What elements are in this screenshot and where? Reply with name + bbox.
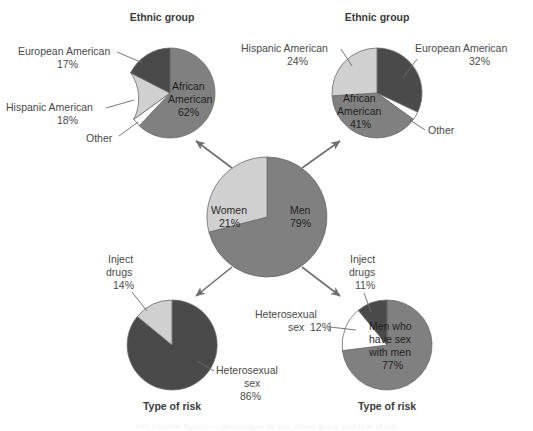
label-european-american-tr: European American <box>415 42 507 54</box>
label-msm-2: have sex <box>369 333 412 345</box>
label-european-american-tl-pct: 17% <box>57 58 78 70</box>
chart-title-bottom-left: Type of risk <box>143 400 201 412</box>
label-sex-br: sex <box>288 321 305 333</box>
pie-center-sex: Men 79% Women 21% <box>207 157 327 277</box>
label-other-tr: Other <box>428 124 455 136</box>
label-african-american-tr-2: American <box>337 105 382 117</box>
label-african-american-tl-pct: 62% <box>178 106 199 118</box>
label-heterosexual-sex-bl-pct: 86% <box>240 390 261 402</box>
hiv-statistics-figure: Ethnic group Ethnic group Type of risk T… <box>0 0 533 431</box>
chart-title-top-right: Ethnic group <box>345 11 410 23</box>
label-hispanic-american-tr: Hispanic American <box>241 42 328 54</box>
label-african-american-tl-2: American <box>168 93 213 105</box>
label-hispanic-american-tl: Hispanic American <box>6 101 93 113</box>
label-african-american-tl-1: African <box>172 80 205 92</box>
label-sex-bl: sex <box>244 377 261 389</box>
label-african-american-tr-pct: 41% <box>350 118 371 130</box>
label-heterosexual-br: Heterosexual <box>255 308 317 320</box>
chart-title-top-left: Ethnic group <box>130 11 195 23</box>
label-hispanic-american-tl-pct: 18% <box>57 114 78 126</box>
chart-title-bottom-right: Type of risk <box>358 400 416 412</box>
label-european-american-tl: European American <box>18 45 110 57</box>
figure-canvas: Ethnic group Ethnic group Type of risk T… <box>0 0 533 431</box>
label-drugs-br: drugs <box>349 266 375 278</box>
label-men-pct: 79% <box>290 217 311 229</box>
label-african-american-tr-1: African <box>343 92 376 104</box>
label-msm-1: Men who <box>369 320 412 332</box>
label-other-tl: Other <box>86 132 113 144</box>
label-inject-br: Inject <box>350 253 375 265</box>
figure-caption-partial: HIV infection figures — percentages by s… <box>0 420 533 431</box>
label-hispanic-american-tr-pct: 24% <box>287 55 308 67</box>
label-inject-bl: Inject <box>108 253 133 265</box>
label-women-pct: 21% <box>219 217 240 229</box>
label-msm-3: with men <box>368 346 411 358</box>
label-european-american-tr-pct: 32% <box>469 55 490 67</box>
label-drugs-bl: drugs <box>106 266 132 278</box>
label-msm-pct: 77% <box>382 359 403 371</box>
label-inject-drugs-bl-pct: 14% <box>113 279 134 291</box>
label-men: Men <box>290 204 311 216</box>
label-women: Women <box>211 204 247 216</box>
label-heterosexual-bl: Heterosexual <box>216 364 278 376</box>
label-heterosexual-sex-br-pct: 12% <box>310 321 331 333</box>
label-inject-drugs-br-pct: 11% <box>355 279 375 291</box>
